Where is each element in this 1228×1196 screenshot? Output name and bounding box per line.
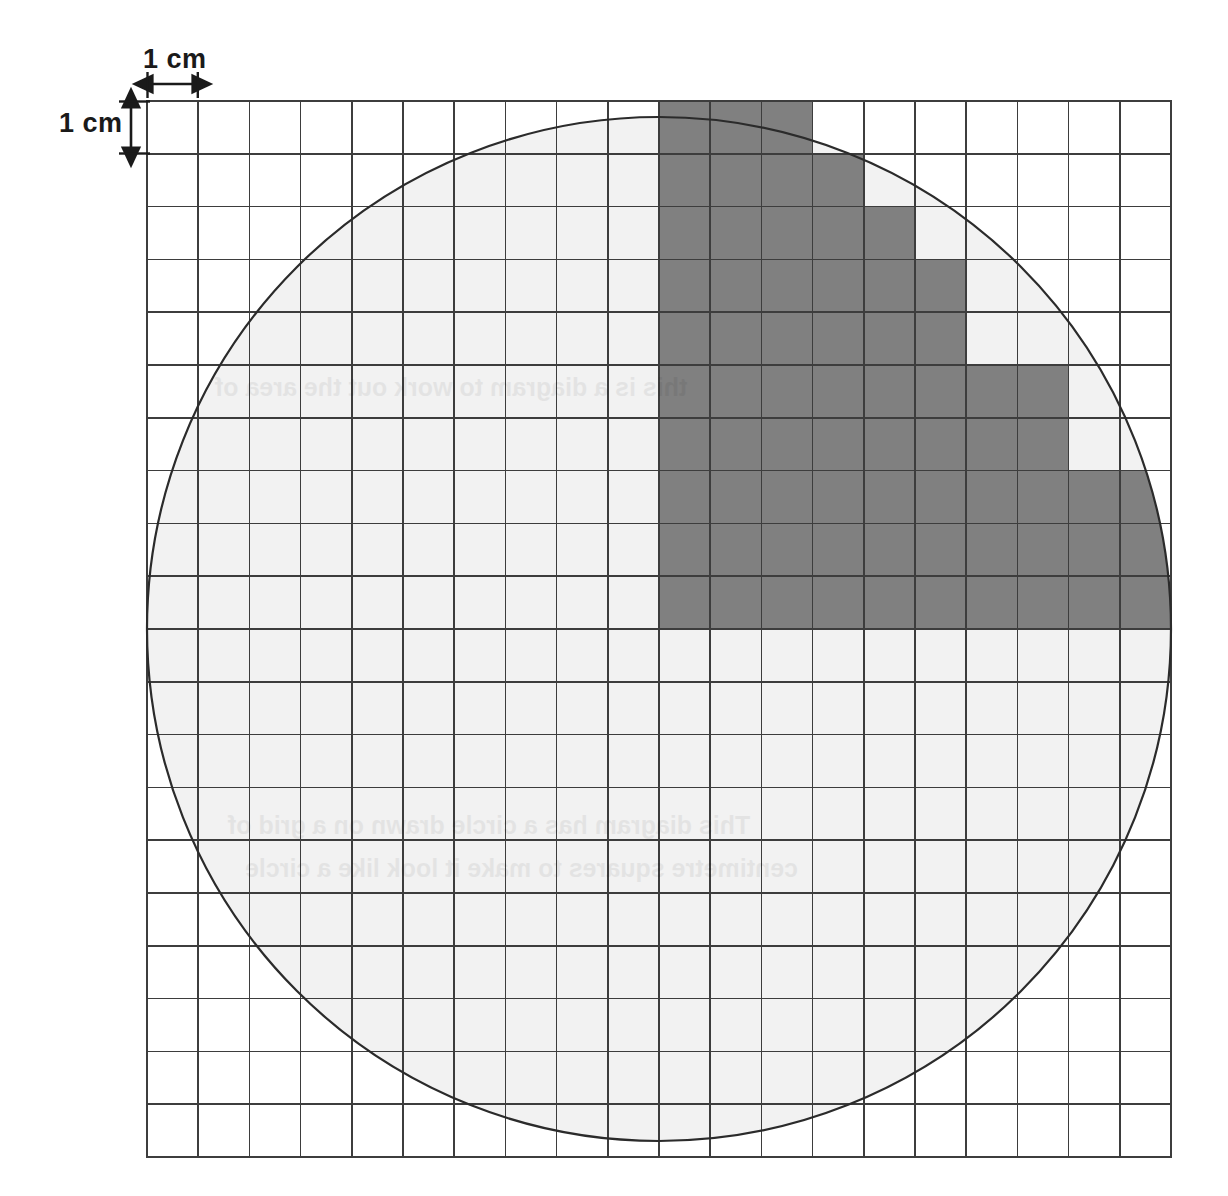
horizontal-dimension-label: 1 cm [143,46,207,73]
figure-root: 1 cm 1 cm this is a diagram to work out … [0,0,1228,1196]
shaded-row-2 [659,207,915,260]
shaded-edge-row-5 [1017,365,1068,418]
shaded-row-0 [659,101,813,154]
shaded-edge-row-6 [1017,418,1068,471]
circle-grid-figure [0,0,1228,1196]
shaded-row-5 [659,365,1017,418]
vertical-dimension-label: 1 cm [59,110,123,137]
shaded-row-6 [659,418,1017,471]
grid-lines [147,101,1171,1157]
